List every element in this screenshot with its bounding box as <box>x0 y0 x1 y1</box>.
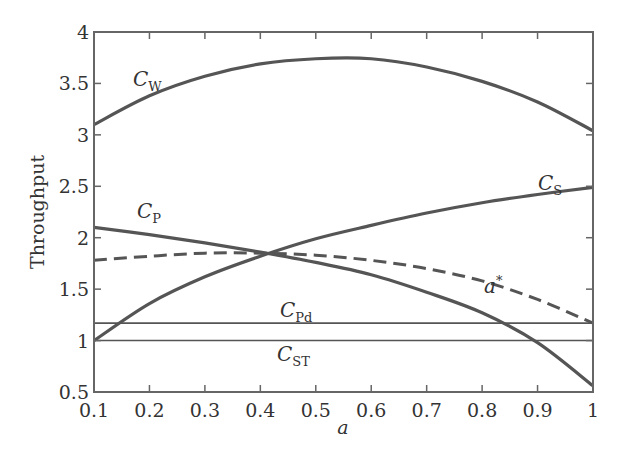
curve-label-a: a* <box>484 273 503 298</box>
curve-label-cp: CP <box>137 199 161 226</box>
x-tick-label: 0.5 <box>301 399 331 421</box>
y-tick-label: 3.5 <box>59 72 89 94</box>
y-axis-title: Throughput <box>26 155 48 269</box>
y-tick-label: 2.5 <box>59 175 89 197</box>
x-axis-title: a <box>337 416 348 438</box>
y-tick-label: 2 <box>77 227 89 249</box>
x-tick-label: 0.8 <box>467 399 497 421</box>
series-cw-line <box>94 58 593 131</box>
curve-label-cst: CST <box>277 342 310 369</box>
x-tick-label: 1 <box>587 399 599 421</box>
curve-label-cpd: CPd <box>280 298 312 325</box>
series-cp-line <box>94 227 593 385</box>
series-a-line <box>94 253 593 323</box>
curve-label-cs: CS <box>538 171 562 198</box>
x-tick-label: 0.2 <box>134 399 164 421</box>
throughput-chart: 0.10.20.30.40.50.60.70.80.910.511.522.53… <box>0 0 628 456</box>
x-tick-label: 0.9 <box>522 399 552 421</box>
y-tick-label: 0.5 <box>59 381 89 403</box>
x-tick-label: 0.6 <box>356 399 386 421</box>
curve-label-cw: CW <box>133 67 162 94</box>
y-tick-label: 4 <box>77 21 89 43</box>
y-tick-label: 1.5 <box>59 278 89 300</box>
x-tick-label: 0.3 <box>190 399 220 421</box>
plot-lines <box>94 58 593 386</box>
x-tick-label: 0.7 <box>412 399 442 421</box>
x-tick-label: 0.4 <box>245 399 275 421</box>
series-cs-line <box>94 187 593 340</box>
y-tick-label: 1 <box>77 330 89 352</box>
y-tick-label: 3 <box>77 124 89 146</box>
plot-frame <box>94 32 593 392</box>
